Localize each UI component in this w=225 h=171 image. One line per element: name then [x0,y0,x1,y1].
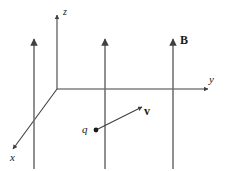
charge-point-dot [94,128,99,133]
z-axis-label: z [63,7,67,17]
velocity-vector-label: v [144,105,150,117]
charge-label: q [82,124,88,135]
magnetic-field-label: B [180,34,188,46]
figure-canvas [0,0,225,171]
x-axis-label: x [10,152,15,163]
physics-figure: z y x B v q [0,0,225,171]
y-axis-label: y [209,74,214,85]
x-axis-line [13,89,57,149]
